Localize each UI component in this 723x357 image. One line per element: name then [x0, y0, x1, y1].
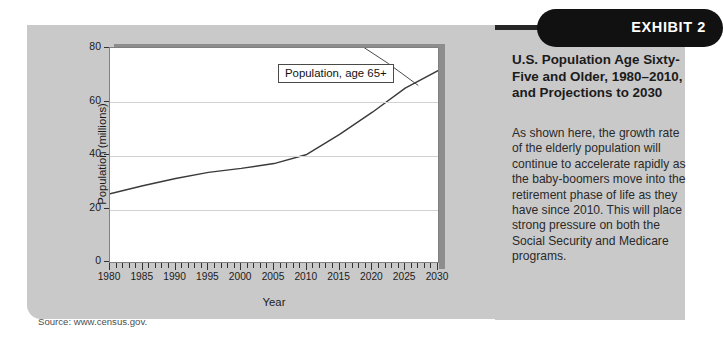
x-axis-minor-tick — [135, 263, 136, 268]
x-axis-minor-tick — [221, 263, 222, 268]
x-axis-minor-tick — [411, 263, 412, 268]
x-axis-minor-tick — [437, 263, 438, 270]
x-axis-minor-tick — [175, 263, 176, 270]
x-axis-minor-tick — [417, 263, 418, 268]
series-callout-label: Population, age 65+ — [278, 64, 394, 83]
x-axis-minor-tick — [234, 263, 235, 268]
x-axis-minor-tick — [319, 263, 320, 268]
exhibit-title: U.S. Population Age Sixty-Five and Older… — [512, 52, 684, 102]
x-axis-minor-tick — [201, 263, 202, 268]
gridline-60 — [110, 102, 438, 103]
x-axis-tick-label: 1990 — [158, 271, 192, 282]
x-axis-minor-tick — [155, 263, 156, 268]
x-axis-minor-tick — [116, 263, 117, 268]
x-axis-minor-tick — [293, 263, 294, 268]
x-axis-tick-label: 1985 — [125, 271, 159, 282]
y-axis-tick — [104, 208, 109, 209]
x-axis-minor-tick — [194, 263, 195, 268]
x-axis-minor-tick — [207, 263, 208, 270]
x-axis-minor-tick — [325, 263, 326, 268]
x-axis-minor-tick — [365, 263, 366, 268]
x-axis-minor-tick — [168, 263, 169, 268]
x-axis-minor-tick — [266, 263, 267, 268]
x-axis-tick-label: 1995 — [190, 271, 224, 282]
x-axis-minor-tick — [161, 263, 162, 268]
x-axis-minor-tick — [391, 263, 392, 268]
x-axis-minor-tick — [253, 263, 254, 268]
x-axis-tick-label: 2010 — [289, 271, 323, 282]
x-axis-minor-tick — [385, 263, 386, 268]
y-axis-tick — [104, 261, 109, 262]
x-axis-minor-tick — [122, 263, 123, 268]
source-note: Source: www.census.gov. — [38, 316, 147, 327]
x-axis-minor-tick — [129, 263, 130, 268]
x-axis-minor-tick — [312, 263, 313, 268]
x-axis-minor-tick — [260, 263, 261, 268]
y-axis-tick — [104, 47, 109, 48]
x-axis-minor-tick — [352, 263, 353, 268]
x-axis-minor-tick — [240, 263, 241, 270]
x-axis-tick-label: 1980 — [92, 271, 126, 282]
x-axis-minor-tick — [280, 263, 281, 268]
x-axis-minor-tick — [273, 263, 274, 270]
x-axis-minor-tick — [339, 263, 340, 270]
y-axis-tick-label: 0 — [75, 254, 101, 266]
x-axis-minor-tick — [398, 263, 399, 268]
x-axis-minor-tick — [424, 263, 425, 268]
x-axis-minor-tick — [299, 263, 300, 268]
gridline-40 — [110, 156, 438, 157]
x-axis-minor-tick — [181, 263, 182, 268]
x-axis-minor-tick — [109, 263, 110, 270]
x-axis-minor-tick — [404, 263, 405, 270]
x-axis-tick-label: 2030 — [420, 271, 454, 282]
x-axis-minor-tick — [306, 263, 307, 270]
x-axis-tick-label: 2025 — [387, 271, 421, 282]
y-axis-tick — [104, 101, 109, 102]
x-axis-tick-label: 2000 — [223, 271, 257, 282]
x-axis-minor-tick — [148, 263, 149, 268]
x-axis-minor-tick — [332, 263, 333, 268]
x-axis-title: Year — [109, 296, 439, 308]
exhibit-badge-label: EXHIBIT 2 — [631, 19, 706, 35]
exhibit-body-text: As shown here, the growth rate of the el… — [512, 126, 688, 265]
x-axis-minor-tick — [247, 263, 248, 268]
x-axis-tick-label: 2020 — [354, 271, 388, 282]
exhibit-figure: Population, age 65+ 020406080 1980198519… — [0, 0, 723, 357]
y-axis-title: Population (millions) — [96, 103, 108, 205]
x-axis-minor-tick — [378, 263, 379, 268]
gridline-20 — [110, 210, 438, 211]
x-axis-minor-tick — [214, 263, 215, 268]
x-axis-minor-tick — [345, 263, 346, 268]
y-axis-tick-label: 80 — [75, 40, 101, 52]
x-axis-minor-tick — [358, 263, 359, 268]
x-axis-minor-tick — [430, 263, 431, 268]
x-axis-minor-tick — [142, 263, 143, 270]
x-axis-tick-label: 2015 — [322, 271, 356, 282]
exhibit-badge: EXHIBIT 2 — [537, 9, 723, 47]
x-axis-minor-tick — [371, 263, 372, 270]
x-axis-tick-label: 2005 — [256, 271, 290, 282]
x-axis-minor-tick — [188, 263, 189, 268]
x-axis-minor-tick — [227, 263, 228, 268]
x-axis-minor-tick — [286, 263, 287, 268]
plot-shadow-right — [439, 44, 445, 269]
